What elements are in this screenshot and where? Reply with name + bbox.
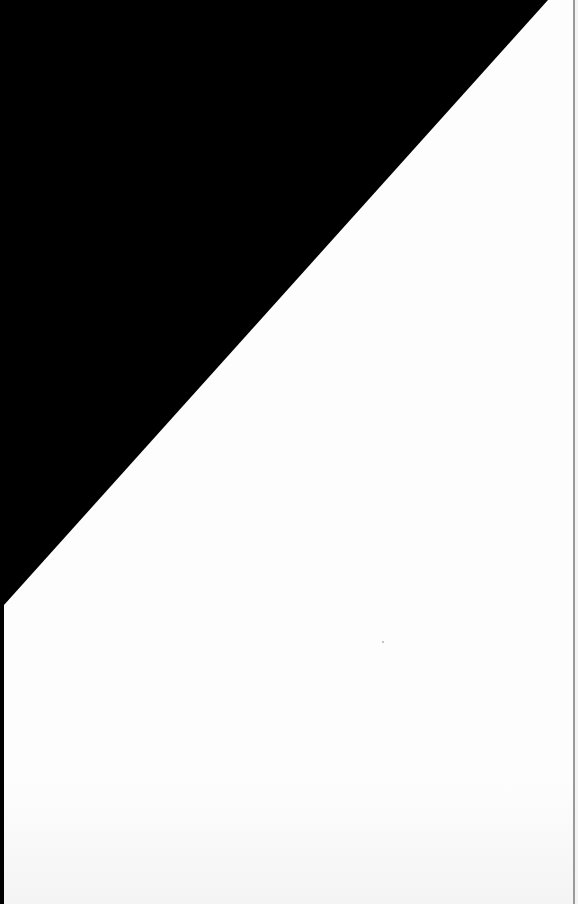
dust-speck	[382, 641, 384, 643]
photo-scene	[0, 0, 578, 904]
paper-shadow	[0, 784, 578, 904]
blank-paper-sheet	[0, 0, 578, 904]
